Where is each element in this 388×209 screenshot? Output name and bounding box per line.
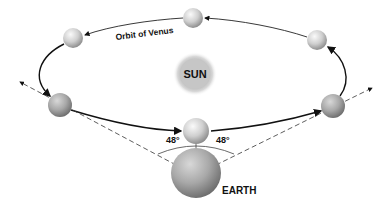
orbit-arc-top-right	[205, 18, 307, 37]
angle-label-right: 48°	[216, 135, 230, 145]
sun-label: SUN	[183, 68, 206, 80]
venus-elongation-diagram: SUN EARTH Orbit of Venus 48° 48°	[0, 0, 388, 209]
orbit-arc-right	[328, 47, 346, 96]
angle-label-left: 48°	[166, 135, 180, 145]
orbit-arc-bottom-left	[71, 110, 181, 131]
earth	[171, 148, 221, 198]
venus-top	[183, 8, 203, 28]
venus-right	[321, 94, 345, 118]
orbit-arc-left	[39, 44, 64, 96]
sight-line-left	[20, 82, 176, 165]
venus-left	[48, 93, 72, 117]
venus-top-right	[307, 30, 327, 50]
sight-line-right	[216, 88, 372, 165]
venus-top-left	[63, 28, 83, 48]
venus-front	[183, 118, 209, 144]
orbit-label: Orbit of Venus	[115, 25, 174, 42]
earth-label: EARTH	[222, 185, 256, 196]
